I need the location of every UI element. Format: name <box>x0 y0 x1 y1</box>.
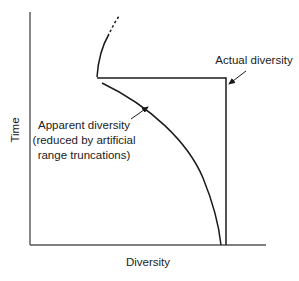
apparent-diversity-label-line2: (reduced by artificial <box>33 134 136 146</box>
apparent-diversity-curve <box>102 83 221 245</box>
diversity-diagram: Actual diversity Apparent diversity (red… <box>0 0 299 281</box>
actual-diversity-label: Actual diversity <box>215 54 293 66</box>
x-axis-label: Diversity <box>126 256 170 268</box>
y-axis-label: Time <box>9 117 21 142</box>
apparent-diversity-label-line3: range truncations) <box>38 149 131 161</box>
apparent-diversity-arrow <box>131 107 148 119</box>
apparent-diversity-label-line1: Apparent diversity <box>38 119 130 131</box>
actual-diversity-arrow <box>229 71 246 84</box>
upper-diversity-curve-dashed <box>110 15 120 32</box>
actual-diversity-line <box>97 78 226 245</box>
upper-diversity-curve <box>97 34 109 77</box>
